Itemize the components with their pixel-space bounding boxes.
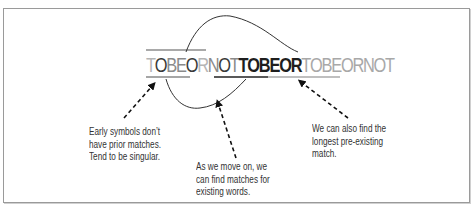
note-line: can find matches for	[196, 174, 270, 187]
symbol: B	[322, 53, 332, 77]
symbol: O	[155, 53, 167, 77]
symbol: O	[341, 53, 353, 77]
symbol: O	[247, 53, 259, 77]
note-line: longest pre-existing	[312, 136, 386, 149]
match-curve-bottom	[166, 79, 246, 108]
symbol: N	[208, 53, 219, 77]
note-move-on: As we move on, we can find matches for e…	[196, 161, 270, 199]
note-line: As we move on, we	[196, 161, 270, 174]
symbol: T	[230, 53, 239, 77]
note-line: match.	[312, 148, 386, 161]
symbol: O	[218, 53, 230, 77]
symbol: T	[301, 53, 310, 77]
arrow-move-on	[218, 103, 236, 158]
symbol: T	[239, 53, 248, 77]
symbol: R	[352, 53, 363, 77]
symbol: N	[363, 53, 374, 77]
note-line: We can also find the	[312, 123, 386, 136]
note-line: existing words.	[196, 186, 270, 199]
symbol: T	[146, 53, 155, 77]
symbol: O	[279, 53, 291, 77]
arrow-early	[124, 85, 153, 118]
symbol-sequence: TOBEORNOTTOBEORTOBEORNOT	[146, 53, 394, 77]
symbol: B	[259, 53, 270, 77]
symbol: E	[331, 53, 341, 77]
match-curve-top	[186, 16, 298, 52]
note-longest-match: We can also find the longest pre-existin…	[312, 123, 386, 161]
symbol: R	[291, 53, 302, 77]
symbol: O	[310, 53, 322, 77]
note-line: Tend to be singular.	[89, 151, 161, 164]
symbol: R	[197, 53, 208, 77]
symbol: E	[269, 53, 279, 77]
arrow-longest	[301, 82, 348, 118]
note-early-symbols: Early symbols don’t have prior matches. …	[89, 126, 161, 164]
symbol: T	[385, 53, 394, 77]
symbol: O	[374, 53, 386, 77]
symbol: B	[166, 53, 176, 77]
symbol: O	[186, 53, 198, 77]
note-line: have prior matches.	[89, 139, 161, 152]
symbol: E	[176, 53, 186, 77]
note-line: Early symbols don’t	[89, 126, 161, 139]
